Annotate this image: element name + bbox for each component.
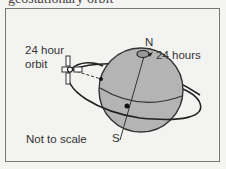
rotation-period-label: 24 hours <box>156 49 201 62</box>
north-label: N <box>145 36 153 49</box>
equator-point <box>125 104 130 109</box>
satellite-icon <box>62 56 82 84</box>
orbit-label-line1: 24 hour <box>25 44 64 57</box>
orbit-label-line2: orbit <box>25 58 47 71</box>
south-label: S <box>112 132 120 145</box>
subsatellite-point <box>99 77 103 81</box>
scale-note: Not to scale <box>26 133 87 146</box>
